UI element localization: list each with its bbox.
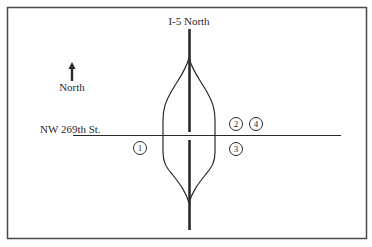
marker-2: 2 xyxy=(230,118,243,131)
marker-4: 4 xyxy=(250,118,263,131)
svg-text:1: 1 xyxy=(138,143,143,153)
svg-text:2: 2 xyxy=(234,119,239,129)
marker-1: 1 xyxy=(134,142,147,155)
compass-label: North xyxy=(59,81,85,93)
north-arrow-icon xyxy=(69,62,76,81)
svg-text:3: 3 xyxy=(234,144,239,154)
marker-3: 3 xyxy=(230,143,243,156)
east-ramp xyxy=(189,58,215,203)
interchange-diagram: I-5 North NW 269th St. North 1 2 3 4 xyxy=(0,0,372,247)
cross-street-label: NW 269th St. xyxy=(40,123,101,135)
svg-text:4: 4 xyxy=(254,119,259,129)
west-ramp xyxy=(163,58,189,203)
highway-label: I-5 North xyxy=(168,15,210,27)
